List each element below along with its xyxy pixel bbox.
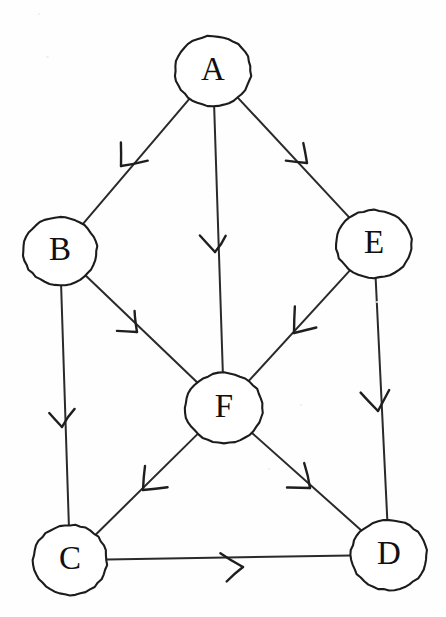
node-e[interactable]: E <box>336 210 412 279</box>
node-c[interactable]: C <box>33 525 108 596</box>
edge-b-to-c <box>61 285 69 525</box>
edge-f-to-d <box>252 433 362 531</box>
edge-a-to-b <box>83 99 190 225</box>
node-label-b: B <box>49 231 71 267</box>
edge-a-to-e <box>238 98 350 218</box>
node-label-c: C <box>59 540 81 576</box>
node-label-a: A <box>201 51 225 87</box>
graph-canvas: ABEFCD <box>0 0 446 617</box>
graph-figure: ABEFCD <box>0 0 446 617</box>
arrowhead-a-to-f <box>200 235 226 252</box>
edge-f-to-c <box>96 434 198 535</box>
nodes-layer: ABEFCD <box>23 36 427 596</box>
node-label-d: D <box>377 535 401 571</box>
node-b[interactable]: B <box>23 217 97 285</box>
edge-b-to-f <box>86 276 198 383</box>
arrowhead-f-to-c <box>143 466 168 490</box>
arrowheads-layer <box>49 142 389 581</box>
edge-e-to-f <box>249 270 350 381</box>
node-f[interactable]: F <box>185 372 263 443</box>
node-label-e: E <box>364 224 384 260</box>
node-d[interactable]: D <box>350 520 427 591</box>
node-label-f: F <box>215 388 233 424</box>
node-a[interactable]: A <box>175 36 251 106</box>
arrowhead-b-to-c <box>49 409 74 427</box>
edges-layer <box>61 98 387 560</box>
edge-a-to-f <box>214 106 223 373</box>
arrowhead-e-to-d <box>361 390 390 411</box>
